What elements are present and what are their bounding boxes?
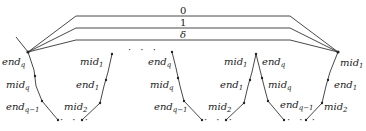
label-end-q: endq [148, 57, 171, 69]
label-mid-1: mid1 [224, 57, 248, 69]
ellipsis-bottom: · · · [287, 115, 318, 125]
label-mid-1: mid1 [340, 58, 364, 70]
label-mid-2: mid2 [324, 102, 348, 114]
edge-delta [28, 40, 338, 52]
incoming-edge [16, 37, 28, 52]
label-mid-q: midq [150, 80, 174, 92]
label-mid-q: midq [6, 80, 30, 92]
label-end-1: end1 [220, 80, 243, 92]
label-end-q-minus-1: endq−1 [280, 100, 314, 112]
edge-label-0: 0 [180, 6, 186, 16]
label-end-1: end1 [334, 80, 357, 92]
ellipsis-top: · · · [128, 45, 159, 55]
label-end-q-minus-1: endq−1 [154, 102, 188, 114]
label-mid-q: midq [268, 80, 292, 92]
path-diagram: 0 1 δ · · · endq midq endq−1 · · · mid1 … [0, 0, 366, 131]
label-end-q-minus-1: endq−1 [6, 102, 40, 114]
label-end-q: endq [262, 57, 285, 69]
ellipsis-bottom: · · · [204, 115, 235, 125]
label-mid-2: mid2 [208, 102, 232, 114]
label-end-1: end1 [76, 80, 99, 92]
label-mid-2: mid2 [64, 102, 88, 114]
label-end-q: endq [2, 57, 25, 69]
label-mid-1: mid1 [80, 57, 104, 69]
ellipsis-bottom: · · · [60, 115, 91, 125]
edge-label-delta: δ [180, 30, 186, 40]
edge-label-1: 1 [180, 18, 186, 28]
